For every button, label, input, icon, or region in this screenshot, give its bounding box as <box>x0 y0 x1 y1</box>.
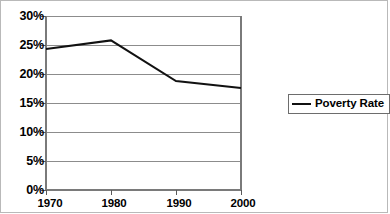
x-tick-label-2000: 2000 <box>230 197 255 209</box>
legend-line-swatch-icon <box>292 103 311 105</box>
x-tick-label-1990: 1990 <box>166 197 191 209</box>
legend-label-poverty-rate: Poverty Rate <box>315 97 384 110</box>
x-tick-label-1980: 1980 <box>101 197 126 209</box>
chart-legend: Poverty Rate <box>288 94 390 114</box>
x-tick-label-1970: 1970 <box>37 197 62 209</box>
